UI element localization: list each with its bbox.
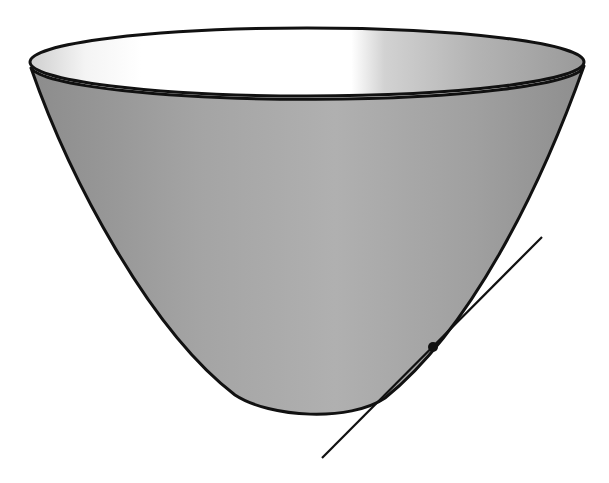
paraboloid-diagram: [0, 0, 609, 483]
tangent-point: [428, 342, 438, 352]
paraboloid-rim-opening: [30, 28, 584, 96]
paraboloid-surface: [31, 66, 584, 414]
diagram-canvas: [0, 0, 609, 483]
